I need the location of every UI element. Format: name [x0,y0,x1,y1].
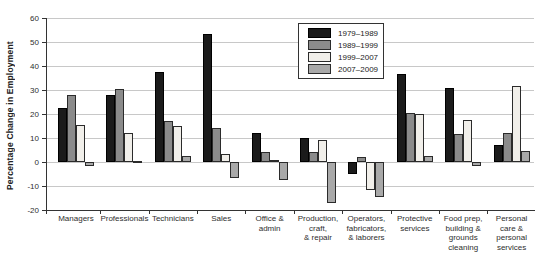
employment-change-bar-chart: Percentage Change in Employment 60504030… [0,0,553,266]
bar-1979–1989-Protective services [397,74,406,162]
y-tick-label-40: 40 [7,62,39,71]
bar-1989–1999-Sales [212,128,221,162]
bar-1989–1999-Professionals [115,89,124,162]
legend-swatch-1979-1989 [308,28,331,38]
bar-1999–2007-Professionals [124,133,133,162]
y-tick-label-0: 0 [7,158,39,167]
bar-1999–2007-Managers [76,125,85,162]
bar-1989–1999-Technicians [164,121,173,162]
bar-1989–1999-Managers [67,95,76,162]
bar-2007–2009-Food prep, building & grounds cleaning [472,162,481,166]
bar-1979–1989-Production, craft, & repair [300,138,309,162]
legend-label: 1979–1989 [338,29,378,38]
legend-label: 1989–1999 [338,41,378,50]
bar-2007–2009-Production, craft, & repair [327,162,336,203]
y-tick-label--10: -10 [7,182,39,191]
legend-item: 1989–1999 [308,40,383,50]
legend-swatch-1999-2007 [308,52,331,62]
legend-label: 1999–2007 [338,53,378,62]
bar-2007–2009-Personal care & personal services [521,151,530,162]
bar-2007–2009-Professionals [133,161,142,163]
bar-1979–1989-Food prep, building & grounds cleaning [445,88,454,162]
bar-2007–2009-Managers [85,162,94,166]
bar-1979–1989-Sales [203,34,212,162]
plot-area: 6050403020100-10-20ManagersProfessionals… [47,18,534,210]
bar-1999–2007-Personal care & personal services [512,86,521,162]
legend-item: 1999–2007 [308,52,383,62]
legend-label: 2007–2009 [338,65,378,74]
bar-1999–2007-Office & admin [270,160,279,162]
y-tick-label-10: 10 [7,134,39,143]
y-tick-label-20: 20 [7,110,39,119]
gridline-60 [47,18,534,19]
bar-1989–1999-Personal care & personal services [503,133,512,162]
bar-1989–1999-Production, craft, & repair [309,152,318,162]
bar-1979–1989-Personal care & personal services [494,145,503,162]
gridline-40 [47,66,534,67]
gridline--10 [47,186,534,187]
bar-1989–1999-Protective services [406,113,415,162]
bar-2007–2009-Protective services [424,156,433,162]
legend-swatch-1989-1999 [308,40,331,50]
bar-1999–2007-Technicians [173,126,182,162]
bar-1979–1989-Technicians [155,72,164,162]
legend-item: 2007–2009 [308,64,383,74]
x-axis-line [46,210,535,211]
bar-2007–2009-Sales [230,162,239,178]
bar-2007–2009-Operators, fabricators, & laborers [375,162,384,197]
gridline-50 [47,42,534,43]
bar-1999–2007-Production, craft, & repair [318,140,327,162]
bar-1999–2007-Food prep, building & grounds cleaning [463,120,472,162]
y-tick-label-30: 30 [7,86,39,95]
bar-2007–2009-Technicians [182,156,191,162]
legend-item: 1979–1989 [308,28,383,38]
legend-swatch-2007-2009 [308,64,331,74]
legend: 1979–1989 1989–1999 1999–2007 2007–2009 [298,23,384,79]
bar-1979–1989-Professionals [106,95,115,162]
bar-1979–1989-Office & admin [252,133,261,162]
bar-1989–1999-Office & admin [261,152,270,162]
bar-1979–1989-Operators, fabricators, & laborers [348,162,357,174]
bar-1999–2007-Protective services [415,114,424,162]
bar-2007–2009-Office & admin [279,162,288,180]
bar-1989–1999-Food prep, building & grounds cleaning [454,134,463,162]
y-tick-label-60: 60 [7,14,39,23]
y-axis-line [46,18,47,214]
bar-1999–2007-Sales [221,154,230,162]
y-tick-label--20: -20 [7,206,39,215]
y-tick-label-50: 50 [7,38,39,47]
bar-1979–1989-Managers [58,108,67,162]
bar-1999–2007-Operators, fabricators, & laborers [366,162,375,190]
category-label-Personal care & personal services: Personal care & personal services [479,214,545,252]
bar-1989–1999-Operators, fabricators, & laborers [357,157,366,162]
